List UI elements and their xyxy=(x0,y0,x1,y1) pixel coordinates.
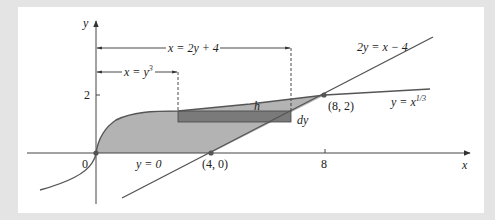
strip-thickness-label: dy xyxy=(297,113,309,127)
curve-equation-label: y = x1/3 xyxy=(390,94,426,109)
point-label-4-0: (4, 0) xyxy=(202,157,228,171)
strip-rectangle xyxy=(178,111,291,122)
origin-label: 0 xyxy=(82,157,88,171)
area-between-curves-figure: y x 2 8 0 x = 2y + 4 x = y3 y = 0 (4, 0)… xyxy=(0,0,495,220)
point-origin xyxy=(93,150,98,155)
point-label-8-2: (8, 2) xyxy=(328,99,354,113)
y-tick-label-2: 2 xyxy=(84,88,90,102)
bottom-boundary-label: y = 0 xyxy=(135,157,161,171)
point-4-0 xyxy=(208,150,213,155)
right-boundary-label: x = 2y + 4 xyxy=(167,41,219,55)
y-axis-label: y xyxy=(82,16,89,30)
point-8-2 xyxy=(321,92,326,97)
x-tick-label-8: 8 xyxy=(321,157,327,171)
x-axis-label: x xyxy=(461,158,468,172)
line-equation-label: 2y = x − 4 xyxy=(357,40,408,54)
left-boundary-label: x = y3 xyxy=(123,64,153,79)
strip-length-label: h xyxy=(254,99,260,113)
